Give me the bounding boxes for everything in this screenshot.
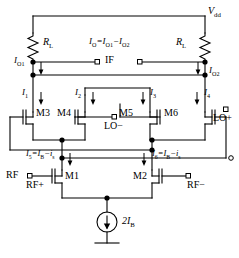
i4-label: I4 — [204, 88, 210, 99]
lo-minus-label[interactable]: LO− — [104, 121, 123, 131]
i2-label: I2 — [75, 88, 81, 99]
schematic-diagram: Vdd RL RL IO=IO1−IO2 IF IO1 IO2 I1 I2 I3… — [0, 0, 239, 258]
m3-label: M3 — [36, 108, 50, 118]
bias-current-label: 2IB — [122, 216, 135, 229]
current-source-arrow — [104, 224, 110, 230]
m6-label: M6 — [164, 108, 178, 118]
m4-label: M4 — [57, 108, 71, 118]
output-current-equation: IO=IO1−IO2 — [89, 37, 130, 48]
i3-label: I3 — [150, 88, 156, 99]
load-resistor-left-label: RL — [43, 37, 53, 50]
load-resistor-right-label: RL — [176, 37, 186, 50]
rf-minus-label[interactable]: RF− — [187, 180, 205, 190]
i1-label: I1 — [22, 88, 28, 99]
m5-label: M5 — [119, 108, 133, 118]
if-pad-right — [138, 60, 143, 65]
lo-minus-pad — [112, 115, 117, 120]
rf-plus-pad — [28, 174, 33, 179]
m1-label: M1 — [65, 171, 79, 181]
m2-label: M2 — [133, 171, 147, 181]
rf-plus-label[interactable]: RF+ — [26, 180, 44, 190]
i5-label: I5=IB−is — [26, 149, 55, 160]
io1-label: IO1 — [14, 56, 24, 67]
i6-label: I6=IB−is — [152, 149, 181, 160]
terminal-pads — [28, 60, 234, 179]
rf-group-label: RF — [6, 170, 18, 180]
load-resistor-left — [28, 33, 38, 62]
vdd-label: Vdd — [208, 6, 221, 19]
lo-plus-label[interactable]: LO+ — [213, 113, 232, 123]
if-pad-left — [95, 60, 100, 65]
rf-minus-pad — [186, 174, 191, 179]
lo-plus-node-pad — [229, 156, 234, 161]
lo-plus-pad — [224, 107, 229, 112]
if-port-label[interactable]: IF — [105, 55, 114, 65]
load-resistor-right — [200, 33, 210, 62]
io2-label: IO2 — [209, 66, 219, 77]
